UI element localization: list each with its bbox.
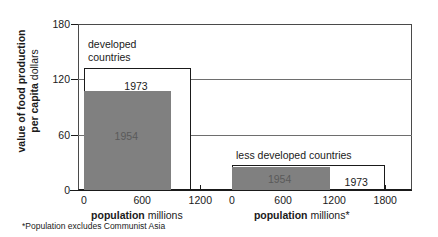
y-axis-tick-label: 180 <box>32 19 70 29</box>
y-axis-title: value of food productionper capita dolla… <box>15 11 41 171</box>
x-axis-title-regular: millions <box>145 209 183 221</box>
x-axis-tick-label: 600 <box>274 194 292 206</box>
x-axis-tick-label: 1200 <box>322 194 345 206</box>
x-axis-tick-mark <box>200 185 201 190</box>
y-axis-title-line1: value of food production <box>15 11 28 171</box>
bar-label-developed-countries-1954: 1954 <box>115 130 138 142</box>
y-axis-tick-label: 120 <box>32 74 70 84</box>
y-axis-title-line2: per capita dollars <box>28 11 41 171</box>
x-axis-baseline <box>70 190 412 191</box>
group-title-line1: developed <box>88 38 136 51</box>
bar-label-less-developed-countries-1954: 1954 <box>268 173 291 185</box>
chart-root: value of food productionper capita dolla… <box>0 0 438 237</box>
group-title-less-developed-countries: less developed countries <box>236 149 352 162</box>
x-axis-tick-label: 0 <box>229 194 235 206</box>
bar-label-developed-countries-1973: 1973 <box>124 80 147 92</box>
x-axis-tick-label: 600 <box>133 194 151 206</box>
bar-label-less-developed-countries-1973: 1973 <box>345 176 368 188</box>
x-axis-title-bold: population <box>91 209 145 221</box>
x-axis-title-developed-countries: population millions <box>91 209 183 221</box>
x-axis-title-less-developed-countries: population millions* <box>254 209 350 221</box>
group-title-line2: countries <box>88 51 136 64</box>
y-axis-tick-mark <box>71 79 78 80</box>
x-axis-tick-label: 1800 <box>374 194 397 206</box>
x-axis-tick-mark <box>385 185 386 190</box>
footnote: *Population excludes Communist Asia <box>22 221 165 231</box>
y-axis-tick-mark <box>71 135 78 136</box>
x-axis-title-regular: millions* <box>308 209 350 221</box>
y-axis-tick-mark <box>71 24 78 25</box>
x-axis-tick-label: 1200 <box>189 194 212 206</box>
group-title-line1: less developed countries <box>236 149 352 161</box>
group-title-developed-countries: developedcountries <box>88 38 136 63</box>
x-axis-title-bold: population <box>254 209 308 221</box>
y-axis-tick-label: 60 <box>32 130 70 140</box>
y-axis-tick-label: 0 <box>32 185 70 195</box>
x-axis-tick-label: 0 <box>81 194 87 206</box>
